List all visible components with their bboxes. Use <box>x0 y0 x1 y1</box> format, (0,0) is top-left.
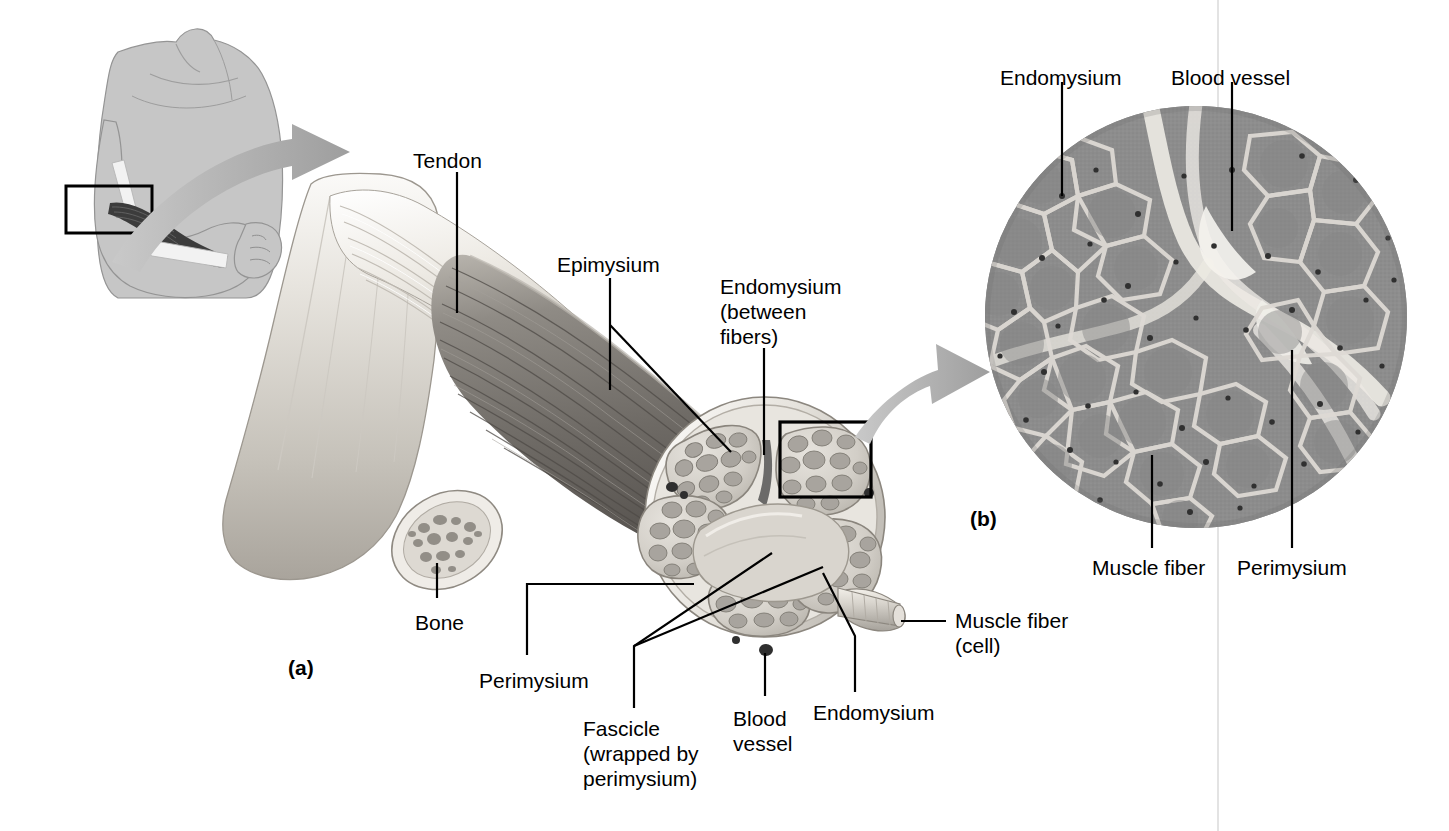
muscle-to-micrograph-arrow <box>855 344 990 444</box>
label-endomysium-a: Endomysium <box>813 700 934 725</box>
label-bone: Bone <box>415 610 464 635</box>
figure-root: Tendon Epimysium Endomysium (between fib… <box>0 0 1449 831</box>
label-epimysium: Epimysium <box>557 252 660 277</box>
label-tendon: Tendon <box>413 148 482 173</box>
panel-label-b: (b) <box>970 506 997 531</box>
label-muscle-fiber-b: Muscle fiber <box>1092 555 1205 580</box>
label-blood-vessel-b: Blood vessel <box>1171 65 1290 90</box>
micrograph-circle <box>964 104 1407 540</box>
label-muscle-fiber-cell: Muscle fiber (cell) <box>955 608 1068 658</box>
perimysium-a-leader <box>527 584 694 655</box>
label-endomysium-b: Endomysium <box>1000 65 1121 90</box>
panel-label-a: (a) <box>288 655 314 680</box>
label-endomysium-between-fibers: Endomysium (between fibers) <box>720 274 841 349</box>
label-fascicle: Fascicle (wrapped by perimysium) <box>583 716 699 791</box>
label-blood-vessel-a: Blood vessel <box>733 706 793 756</box>
label-perimysium-a: Perimysium <box>479 668 589 693</box>
figure-artwork <box>0 0 1449 831</box>
label-perimysium-b: Perimysium <box>1237 555 1347 580</box>
